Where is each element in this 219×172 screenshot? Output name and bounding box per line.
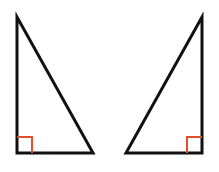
right-triangle xyxy=(126,17,202,153)
left-triangle xyxy=(17,17,93,153)
right-angle-marker-left-icon xyxy=(17,137,32,153)
left-triangle-shape xyxy=(17,17,93,153)
right-triangle-shape xyxy=(126,17,202,153)
diagram-canvas xyxy=(0,0,219,172)
right-angle-marker-right-icon xyxy=(187,137,202,153)
